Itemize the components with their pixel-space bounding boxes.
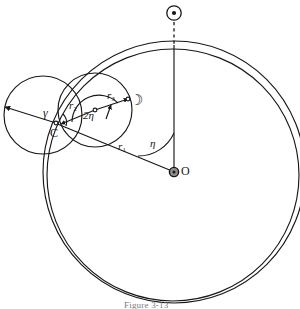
- gamma-direction-line: [5, 107, 56, 123]
- label-r2: r2: [69, 100, 77, 111]
- sun-marker-dot: [172, 11, 176, 15]
- label-two-eta: 2η: [83, 110, 94, 121]
- label-origin-o: O: [181, 165, 190, 177]
- motion-arrow: [106, 105, 111, 119]
- label-gamma: γ: [43, 107, 48, 119]
- label-r1-subscript: 1: [122, 146, 125, 153]
- label-point-c: C: [50, 127, 58, 139]
- figure-container: ☽ O C γ η 2η r1 r2 r3 Figure 3-13: [0, 0, 300, 309]
- eta-arc: [138, 133, 174, 156]
- figure-caption: Figure 3-13: [124, 301, 168, 309]
- earth-marker-dot: [173, 171, 176, 174]
- node-marker-c: [54, 121, 58, 125]
- moon-symbol: ☽: [130, 93, 143, 108]
- label-r3: r3: [107, 90, 115, 101]
- label-r2-subscript: 2: [73, 105, 76, 112]
- label-eta: η: [150, 138, 155, 149]
- label-r1: r1: [118, 141, 126, 152]
- diagram-canvas: [0, 0, 300, 309]
- label-r3-subscript: 3: [111, 95, 114, 102]
- gamma-arc: [63, 114, 67, 126]
